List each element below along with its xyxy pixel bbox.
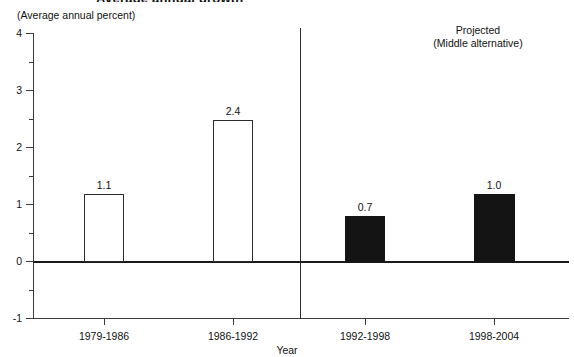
x-tick-1998-2004 [494, 318, 495, 325]
y-tick-1 [26, 204, 34, 205]
x-tick-label-1992-1998: 1992-1998 [305, 330, 425, 342]
bar-1979-1986[interactable] [84, 194, 124, 262]
bar-value-1998-2004: 1.0 [454, 179, 534, 191]
projection-divider-line [300, 28, 301, 319]
y-tick-label-1: 1 [0, 198, 22, 210]
bar-1992-1998[interactable] [345, 216, 385, 262]
x-tick-label-1979-1986: 1979-1986 [44, 330, 164, 342]
y-tick-label-3: 3 [0, 84, 22, 96]
x-tick-1986-1992 [233, 318, 234, 325]
bar-value-1986-1992: 2.4 [193, 105, 273, 117]
y-tick-label-neg1: -1 [0, 312, 22, 324]
plot-area: 4 3 2 1 0 -1 1.1 2.4 0.7 1.0 1979-1986 [0, 0, 574, 357]
y-minor-tick-1-5 [29, 176, 34, 177]
projected-annotation-line1: Projected [398, 24, 558, 37]
y-minor-tick-0-5 [29, 233, 34, 234]
y-tick-2 [26, 147, 34, 148]
x-axis-line [33, 318, 569, 319]
projected-annotation-line2: (Middle alternative) [398, 37, 558, 50]
y-tick-4 [26, 33, 34, 34]
x-axis-title: Year [0, 344, 574, 356]
y-tick-neg1 [26, 318, 34, 319]
bar-value-1992-1998: 0.7 [325, 201, 405, 213]
bar-1986-1992[interactable] [213, 120, 253, 262]
y-minor-tick-3-5 [29, 62, 34, 63]
x-tick-1992-1998 [365, 318, 366, 325]
x-tick-label-1998-2004: 1998-2004 [434, 330, 554, 342]
x-tick-label-1986-1992: 1986-1992 [173, 330, 293, 342]
y-tick-3 [26, 90, 34, 91]
bar-1998-2004[interactable] [474, 194, 515, 262]
bar-value-1979-1986: 1.1 [64, 179, 144, 191]
y-tick-label-4: 4 [0, 27, 22, 39]
chart-root: Average annual growth (Average annual pe… [0, 0, 574, 357]
projected-annotation: Projected (Middle alternative) [398, 24, 558, 50]
x-tick-1979-1986 [104, 318, 105, 325]
y-minor-tick-neg0-5 [29, 290, 34, 291]
y-minor-tick-2-5 [29, 119, 34, 120]
y-tick-label-0: 0 [0, 255, 22, 267]
y-tick-label-2: 2 [0, 141, 22, 153]
y-tick-0 [26, 261, 34, 262]
